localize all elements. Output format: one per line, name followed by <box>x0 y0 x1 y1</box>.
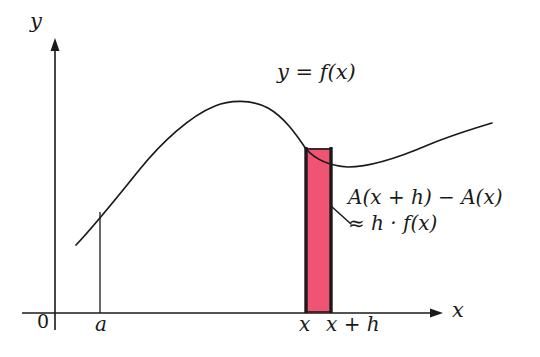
area-difference-label: A(x + h) − A(x) <box>348 186 502 209</box>
figure-canvas: y x 0 a x x + h y = f(x) A(x + h) − A(x)… <box>0 0 540 357</box>
origin-label: 0 <box>37 311 49 333</box>
approximating-rectangle <box>305 147 332 313</box>
x-axis-label: x <box>452 298 464 322</box>
x-axis <box>22 309 443 318</box>
tick-label-x-plus-h: x + h <box>326 313 380 336</box>
tick-label-x: x <box>299 313 310 336</box>
y-axis <box>51 38 60 330</box>
curve-equation-label: y = f(x) <box>277 60 356 84</box>
area-approximation-label: ≈ h · f(x) <box>348 212 437 235</box>
tick-label-a: a <box>95 313 107 336</box>
y-axis-label: y <box>30 9 42 33</box>
